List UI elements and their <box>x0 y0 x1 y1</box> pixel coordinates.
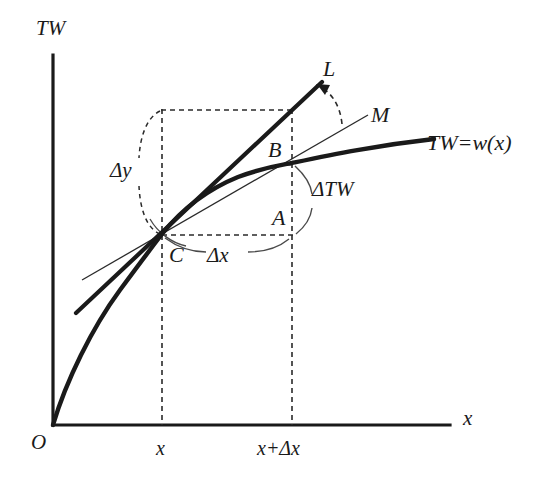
delta-tw-label: ΔTW <box>312 179 354 200</box>
delta-y-label: Δy <box>110 160 132 181</box>
origin-label: O <box>31 432 46 453</box>
delta-y-brace-lower <box>139 186 160 234</box>
y-axis-label: TW <box>36 18 65 39</box>
point-label-a: A <box>272 207 285 229</box>
function-curve-label: TW=w(x) <box>427 132 512 154</box>
derivative-diagram-figure: TW x O x x+Δx TW=w(x) L M C B A Δy Δx ΔT… <box>0 0 540 486</box>
delta-x-label: Δx <box>207 245 229 266</box>
x-tick-label-x: x <box>156 438 165 458</box>
x-axis-label: x <box>463 408 472 429</box>
delta-tw-brace-group <box>295 166 312 234</box>
delta-y-brace-group <box>139 111 160 234</box>
diagram-canvas <box>0 0 540 486</box>
rotation-arrow-arc <box>316 85 342 124</box>
rotation-arrow-group <box>316 85 342 124</box>
point-label-b: B <box>268 139 281 161</box>
tangent-line-label-l: L <box>323 58 335 80</box>
delta-tw-brace-lower <box>296 208 312 234</box>
delta-x-brace-right <box>248 239 289 252</box>
point-label-c: C <box>169 244 184 266</box>
x-tick-label-x-plus-delta-x: x+Δx <box>257 438 300 458</box>
secant-line-label-m: M <box>371 104 389 126</box>
delta-tw-brace-upper <box>295 166 312 194</box>
delta-y-brace-upper <box>139 111 160 158</box>
